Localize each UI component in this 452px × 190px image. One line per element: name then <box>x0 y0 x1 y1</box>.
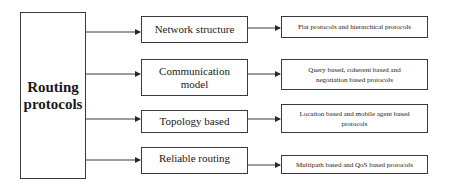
category-reliable-routing: Reliable routing <box>141 147 248 174</box>
leaf-communication-model: Query based, coherent based and negotiat… <box>281 59 428 90</box>
leaf-topology-based: Location based and mobile agent based pr… <box>281 104 428 133</box>
routing-protocols-root-box: Routing protocols <box>20 12 86 179</box>
leaf-label: Location based and mobile agent based pr… <box>294 109 415 129</box>
leaf-label: Flat protocols and hierarchical protocol… <box>298 22 411 32</box>
leaf-reliable-routing: Multipath based and QoS based protocols <box>281 155 428 174</box>
category-label: Communication model <box>156 65 233 91</box>
category-network-structure: Network structure <box>141 16 248 43</box>
leaf-label: Query based, coherent based and negotiat… <box>300 65 409 85</box>
category-label: Reliable routing <box>159 152 230 165</box>
category-topology-based: Topology based <box>141 110 248 133</box>
root-label-line2: protocols <box>24 96 83 113</box>
category-label: Network structure <box>155 23 235 36</box>
leaf-label: Multipath based and QoS based protocols <box>296 160 413 170</box>
leaf-network-structure: Flat protocols and hierarchical protocol… <box>281 16 428 38</box>
category-communication-model: Communication model <box>141 59 248 96</box>
category-label: Topology based <box>160 115 230 128</box>
root-label-line1: Routing <box>24 79 83 96</box>
